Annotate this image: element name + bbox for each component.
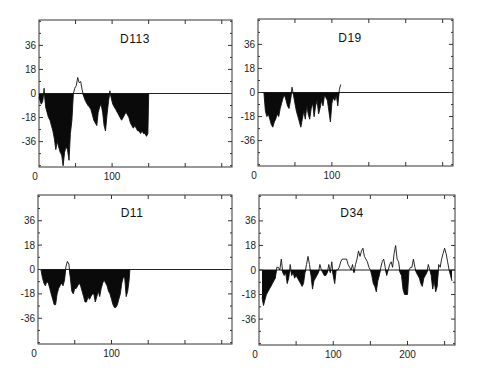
panel-title: D34 [340,206,364,220]
negative-area-fill [262,270,452,306]
figure-grid: 36180-18-360100 D113 36180-18-360100 D19… [0,0,477,375]
x-tick-label: 100 [325,349,342,360]
x-tick-label: 200 [399,349,416,360]
y-tick-label: -18 [242,289,257,300]
y-tick-label: 36 [245,215,257,226]
y-tick-label: 18 [245,240,257,251]
x-tick-label: 0 [252,349,258,360]
y-tick-label: -36 [242,314,257,325]
y-tick-label: 0 [250,265,256,276]
panel-d34: 36180-18-360100200 D34 [0,0,477,375]
